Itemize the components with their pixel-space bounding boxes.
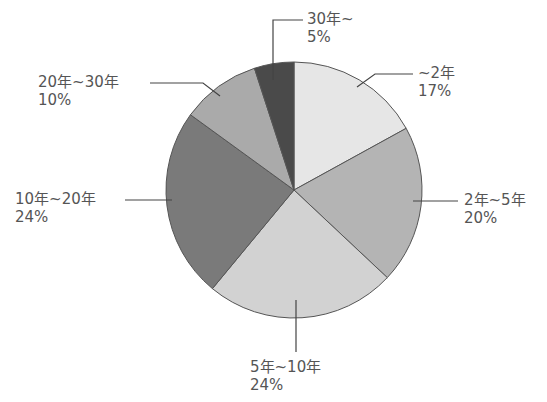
slice-label-pct: 10% <box>38 91 119 109</box>
slice-label-pct: 5% <box>307 28 354 46</box>
slice-label-name: 5年~10年 <box>250 358 321 376</box>
slice-label-name: 20年~30年 <box>38 73 119 91</box>
slice-label-3: 10年~20年 24% <box>15 190 96 226</box>
slice-label-pct: 17% <box>418 82 455 100</box>
slice-label-name: ~2年 <box>418 64 455 82</box>
slice-label-4: 20年~30年 10% <box>38 73 119 109</box>
pie-slices <box>166 62 422 318</box>
slice-label-1: 2年~5年 20% <box>464 191 526 227</box>
slice-label-name: 10年~20年 <box>15 190 96 208</box>
slice-label-name: 2年~5年 <box>464 191 526 209</box>
slice-label-2: 5年~10年 24% <box>250 358 321 394</box>
slice-label-5: 30年~ 5% <box>307 10 354 46</box>
slice-label-pct: 20% <box>464 209 526 227</box>
slice-label-pct: 24% <box>250 376 321 394</box>
slice-label-name: 30年~ <box>307 10 354 28</box>
slice-label-pct: 24% <box>15 208 96 226</box>
slice-label-0: ~2年 17% <box>418 64 455 100</box>
